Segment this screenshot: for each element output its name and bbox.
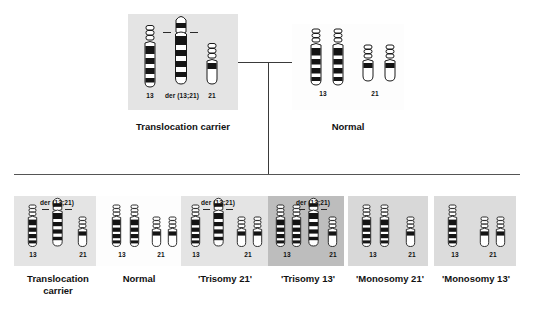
- offspring-panel-monosomy-21: 13 21: [348, 196, 428, 266]
- chromosome-21-svg: [235, 216, 248, 248]
- chromosome-21: [326, 216, 339, 252]
- breakpoint-dash-right: [65, 209, 72, 210]
- offspring-label-21: 21: [72, 251, 94, 258]
- chromosome-21-svg: [166, 216, 179, 248]
- chromosome-13: [142, 24, 158, 92]
- chromosome-13-svg: [308, 28, 324, 86]
- chromosome-13-svg: [110, 204, 123, 248]
- chromosome-label-21: 21: [200, 92, 224, 99]
- caption-line-2: carrier: [8, 285, 108, 297]
- offspring-caption-monosomy-21: 'Monosomy 21': [342, 273, 438, 284]
- breakpoint-dash-right: [321, 209, 327, 210]
- chromosome-13: [330, 28, 346, 90]
- breakpoint-dash-left: [42, 209, 49, 210]
- karyotype-group: 13 21: [348, 196, 428, 266]
- chromosome-21: [235, 216, 248, 252]
- karyotype-group: der (13;21) 13 21: [268, 196, 344, 266]
- chromosome-13-svg: [446, 204, 459, 248]
- offspring-label-21: 21: [322, 251, 344, 258]
- offspring-panel-translocation-carrier: der (13;21) 13 21: [14, 196, 102, 266]
- diagram-canvas: 13 der (13;21) 21 Translocation carrier: [0, 0, 534, 309]
- chromosome-der-svg: [172, 12, 190, 88]
- chromosome-13: [446, 204, 459, 252]
- karyotype-group: 13 der (13;21) 21: [128, 14, 238, 110]
- offspring-label-21: 21: [235, 251, 261, 258]
- chromosome-21: [251, 216, 264, 252]
- chromosome-13: [290, 204, 303, 252]
- parent-panel-normal: 13 21: [292, 24, 404, 110]
- offspring-label-21: 21: [480, 251, 506, 258]
- parent-caption-normal: Normal: [288, 121, 408, 132]
- chromosome-21-svg: [478, 216, 491, 248]
- chromosome-label-21: 21: [360, 90, 390, 97]
- chromosome-21-svg: [326, 216, 339, 248]
- offspring-label-13: 13: [276, 251, 298, 258]
- chromosome-21-svg: [494, 216, 507, 248]
- chromosome-13-svg: [189, 204, 202, 248]
- chromosome-13-svg: [274, 204, 287, 248]
- offspring-label-21: 21: [400, 251, 424, 258]
- offspring-caption-monosomy-13: 'Monosomy 13': [428, 273, 524, 284]
- chromosome-13-svg: [290, 204, 303, 248]
- parent-caption-translocation-carrier: Translocation carrier: [118, 121, 248, 132]
- offspring-label-13: 13: [109, 251, 135, 258]
- chromosome-13: [128, 204, 141, 252]
- chromosome-13-svg: [378, 204, 391, 248]
- karyotype-group: 13 21: [434, 196, 516, 266]
- chromosome-21-svg: [251, 216, 264, 248]
- offspring-caption-normal: Normal: [96, 273, 182, 284]
- offspring-caption-trisomy-21: 'Trisomy 21': [179, 273, 271, 284]
- sibship-bar: [14, 174, 520, 175]
- offspring-label-13: 13: [444, 251, 466, 258]
- chromosome-21: [404, 216, 417, 252]
- chromosome-label-13: 13: [308, 90, 338, 97]
- breakpoint-dash-left: [163, 32, 171, 33]
- karyotype-group: der (13;21) 13 21: [14, 196, 102, 266]
- chromosome-13: [274, 204, 287, 252]
- offspring-caption-trisomy-13: 'Trisomy 13': [262, 273, 354, 284]
- chromosome-21-svg: [382, 44, 398, 86]
- chromosome-13: [110, 204, 123, 252]
- chromosome-13: [360, 204, 373, 252]
- offspring-der-label: der (13;21): [28, 199, 86, 206]
- breakpoint-dash-right: [190, 32, 198, 33]
- offspring-label-21: 21: [148, 251, 174, 258]
- karyotype-group: 13 21: [96, 196, 182, 266]
- chromosome-13-svg: [360, 204, 373, 248]
- breakpoint-dash-left: [203, 209, 210, 210]
- chromosome-21-svg: [360, 44, 376, 86]
- chromosome-13: [189, 204, 202, 252]
- chromosome-der-13-21: [172, 12, 190, 92]
- chromosome-13-svg: [128, 204, 141, 248]
- chromosome-21: [360, 44, 376, 90]
- chromosome-13: [378, 204, 391, 252]
- karyotype-group: 13 21: [292, 24, 404, 110]
- offspring-panel-trisomy-13: der (13;21) 13 21: [268, 196, 344, 266]
- chromosome-13: [26, 204, 39, 252]
- offspring-caption-translocation-carrier: Translocation carrier: [8, 273, 108, 297]
- chromosome-13: [308, 28, 324, 90]
- chromosome-13-svg: [330, 28, 346, 86]
- descent-line: [268, 62, 269, 174]
- chromosome-21-svg: [204, 42, 220, 88]
- offspring-panel-trisomy-21: der (13;21) 13 21: [181, 196, 269, 266]
- offspring-label-13: 13: [360, 251, 386, 258]
- chromosome-21: [204, 42, 220, 92]
- chromosome-13-svg: [26, 204, 39, 248]
- parent-panel-translocation-carrier: 13 der (13;21) 21: [128, 14, 238, 110]
- chromosome-21: [494, 216, 507, 252]
- chromosome-13-svg: [142, 24, 158, 88]
- karyotype-group: der (13;21) 13 21: [181, 196, 269, 266]
- offspring-label-13: 13: [185, 251, 207, 258]
- chromosome-21: [150, 216, 163, 252]
- chromosome-21: [76, 216, 89, 252]
- chromosome-21: [166, 216, 179, 252]
- offspring-panel-monosomy-13: 13 21: [434, 196, 516, 266]
- offspring-panel-normal: 13 21: [96, 196, 182, 266]
- breakpoint-dash-right: [226, 209, 233, 210]
- offspring-der-label: der (13;21): [284, 199, 342, 206]
- caption-line-1: Translocation: [8, 273, 108, 285]
- breakpoint-dash-left: [299, 209, 305, 210]
- chromosome-21: [478, 216, 491, 252]
- chromosome-21-svg: [404, 216, 417, 248]
